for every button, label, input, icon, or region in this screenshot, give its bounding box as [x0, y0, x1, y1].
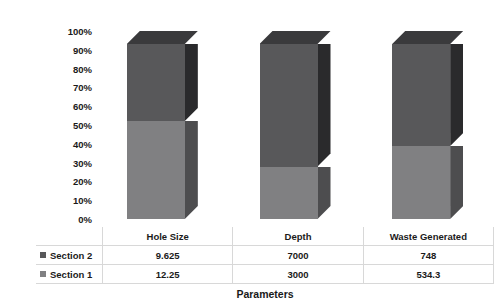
bar-segment-section-1 — [392, 146, 463, 219]
bar-face-side — [318, 167, 331, 220]
y-axis-tick-label: 0% — [48, 214, 92, 225]
bar-face-front — [127, 44, 185, 121]
y-axis-tick-label: 10% — [48, 195, 92, 206]
table-row: Section 112.253000534.3 — [36, 265, 494, 284]
bar-face-front — [127, 121, 185, 219]
table-header-row: Hole SizeDepthWaste Generated — [36, 227, 494, 246]
bar-face-front — [260, 167, 318, 220]
plot-area — [96, 31, 494, 219]
table-cell: 748 — [363, 246, 493, 265]
bar-face-side — [185, 44, 198, 121]
y-axis-tick-label: 70% — [48, 82, 92, 93]
bar-face-side — [318, 44, 331, 167]
table-cell: 3000 — [233, 265, 363, 284]
bar-column — [127, 31, 198, 219]
legend-label: Section 2 — [50, 250, 92, 261]
bar-column — [260, 31, 331, 219]
y-axis-tick-label: 50% — [48, 120, 92, 131]
legend-entry[interactable]: Section 1 — [36, 265, 103, 284]
bar-face-front — [392, 44, 450, 146]
bar-face-side — [450, 44, 463, 146]
bar-segment-section-1 — [127, 121, 198, 219]
y-axis-tick-label: 90% — [48, 44, 92, 55]
x-axis-title: Parameters — [36, 288, 494, 300]
bar-face-front — [260, 44, 318, 167]
chart-data-table: Hole SizeDepthWaste GeneratedSection 29.… — [36, 227, 494, 284]
legend-label: Section 1 — [50, 269, 92, 280]
bar-segment-section-2 — [260, 44, 331, 167]
bar-face-top — [260, 31, 331, 44]
bar-segment-section-2 — [392, 44, 463, 146]
y-axis-tick-label: 80% — [48, 63, 92, 74]
bar-face-top — [392, 31, 463, 44]
y-axis-tick-labels: 100%90%80%70%60%50%40%30%20%10%0% — [48, 31, 92, 219]
legend-swatch-icon — [40, 271, 46, 277]
bar-face-side — [185, 121, 198, 219]
y-axis-tick-label: 30% — [48, 157, 92, 168]
legend-swatch-icon — [40, 252, 46, 258]
table-cell: 7000 — [233, 246, 363, 265]
table-cell: 12.25 — [103, 265, 233, 284]
table-cell: 9.625 — [103, 246, 233, 265]
bar-segment-section-2 — [127, 44, 198, 121]
bar-segment-section-1 — [260, 167, 331, 220]
bar-column — [392, 31, 463, 219]
table-column-header: Waste Generated — [363, 227, 493, 246]
y-axis-tick-label: 60% — [48, 101, 92, 112]
bar-face-side — [450, 146, 463, 219]
y-axis-tick-label: 100% — [48, 26, 92, 37]
table-cell: 534.3 — [363, 265, 493, 284]
table-row: Section 29.6257000748 — [36, 246, 494, 265]
bar-face-front — [392, 146, 450, 219]
y-axis-tick-label: 40% — [48, 138, 92, 149]
table-column-header: Depth — [233, 227, 363, 246]
y-axis-tick-label: 20% — [48, 176, 92, 187]
bar-face-top — [127, 31, 198, 44]
table-corner-cell — [36, 227, 103, 246]
table-column-header: Hole Size — [103, 227, 233, 246]
stacked-column-chart: Percentage 100%90%80%70%60%50%40%30%20%1… — [0, 0, 500, 308]
legend-entry[interactable]: Section 2 — [36, 246, 103, 265]
